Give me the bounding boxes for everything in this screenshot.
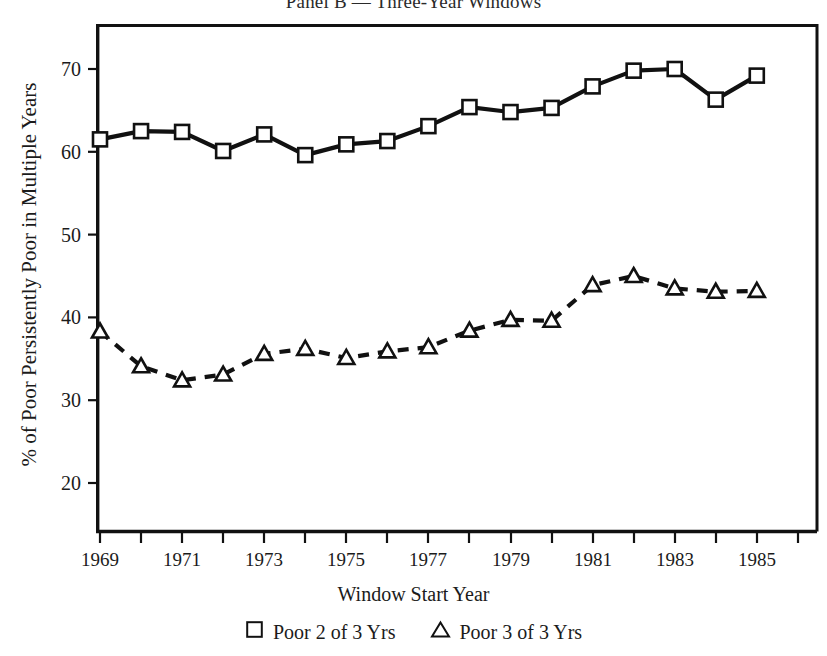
data-point-square xyxy=(339,137,353,151)
svg-text:1969: 1969 xyxy=(81,549,119,570)
x-axis-tick-labels: 1969 1971 1973 1975 1977 1979 1981 1983 … xyxy=(81,549,776,570)
data-point-square xyxy=(257,127,271,141)
triangle-outline-icon xyxy=(430,620,451,644)
svg-text:40: 40 xyxy=(61,306,81,328)
svg-text:30: 30 xyxy=(61,389,81,411)
data-point-square xyxy=(668,62,682,76)
svg-text:1983: 1983 xyxy=(656,549,694,570)
data-point-square xyxy=(709,93,723,107)
data-point-square xyxy=(380,134,394,148)
chart-plot-area: 70 60 50 40 30 20 xyxy=(0,0,827,600)
data-point-square xyxy=(586,79,600,93)
data-point-square xyxy=(627,64,641,78)
svg-text:1975: 1975 xyxy=(327,549,365,570)
data-point-square xyxy=(134,124,148,138)
svg-text:20: 20 xyxy=(61,472,81,494)
chart-legend: Poor 2 of 3 Yrs Poor 3 of 3 Yrs xyxy=(0,620,827,644)
svg-text:50: 50 xyxy=(61,224,81,246)
data-point-square xyxy=(421,119,435,133)
data-point-square xyxy=(750,69,764,83)
legend-item-poor-2-of-3[interactable]: Poor 2 of 3 Yrs xyxy=(245,620,396,644)
square-outline-icon xyxy=(245,620,264,644)
data-point-square xyxy=(545,101,559,115)
data-point-square xyxy=(462,100,476,114)
svg-text:1973: 1973 xyxy=(245,549,283,570)
legend-item-poor-3-of-3[interactable]: Poor 3 of 3 Yrs xyxy=(430,620,583,644)
y-axis-title: % of Poor Persistently Poor in Multiple … xyxy=(17,20,42,530)
svg-text:1985: 1985 xyxy=(738,549,776,570)
data-point-square xyxy=(93,132,107,146)
data-point-square xyxy=(298,148,312,162)
svg-text:70: 70 xyxy=(61,58,81,80)
svg-text:1981: 1981 xyxy=(574,549,612,570)
legend-label-poor-2-of-3: Poor 2 of 3 Yrs xyxy=(273,622,396,642)
legend-label-poor-3-of-3: Poor 3 of 3 Yrs xyxy=(460,622,583,642)
chart-svg: 70 60 50 40 30 20 xyxy=(0,0,827,600)
svg-text:1979: 1979 xyxy=(492,549,530,570)
svg-text:60: 60 xyxy=(61,141,81,163)
x-axis-ticks xyxy=(100,532,798,544)
y-axis-tick-labels: 70 60 50 40 30 20 xyxy=(61,58,81,494)
data-point-square xyxy=(175,125,189,139)
data-point-square xyxy=(216,144,230,158)
data-point-square xyxy=(504,105,518,119)
svg-text:1977: 1977 xyxy=(409,549,447,570)
svg-text:1971: 1971 xyxy=(163,549,201,570)
x-axis-title: Window Start Year xyxy=(0,583,827,606)
